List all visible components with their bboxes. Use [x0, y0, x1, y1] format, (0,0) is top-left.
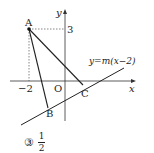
segment-ab [29, 29, 48, 108]
label-a: A [24, 17, 33, 28]
label-b: B [46, 108, 53, 119]
line-equation-label: y=m(x−2) [88, 56, 136, 66]
y-axis-arrow-icon [63, 9, 67, 14]
label-c: C [81, 88, 89, 99]
x-tick-neg2: −2 [18, 83, 33, 94]
origin-label: O [54, 83, 62, 94]
y-axis-label: y [55, 7, 62, 18]
fraction-numerator: 1 [39, 132, 45, 141]
x-axis-label: x [129, 83, 135, 94]
y-tick-3: 3 [67, 24, 73, 35]
line-m [21, 68, 124, 125]
fraction-denominator: 2 [39, 144, 45, 153]
answer-choice: ③ 1 2 [24, 132, 45, 153]
segment-ac [29, 29, 83, 85]
coordinate-diagram: A y 3 y=m(x−2) −2 O C x B [0, 0, 154, 153]
choice-marker: ③ [24, 136, 34, 149]
answer-fraction: 1 2 [38, 132, 45, 153]
